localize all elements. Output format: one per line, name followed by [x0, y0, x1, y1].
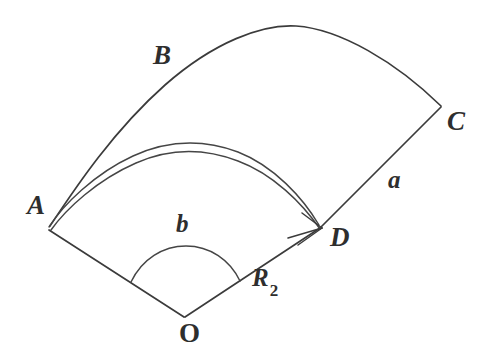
outer-arc-path	[50, 26, 441, 226]
label-r2-subscript: 2	[270, 281, 279, 300]
label-dimension-b: b	[176, 211, 189, 236]
label-dimension-a: a	[388, 167, 401, 192]
tick-mark-d-1	[288, 228, 322, 238]
diagram-canvas: A B C D O a b R2	[0, 0, 489, 360]
label-point-a: A	[27, 192, 45, 219]
label-point-b: B	[153, 42, 171, 69]
angle-arc-path	[131, 246, 240, 282]
radius-OA-path	[49, 230, 184, 317]
edge-a-path	[321, 107, 441, 227]
label-point-o: O	[179, 320, 200, 347]
label-point-d: D	[330, 224, 350, 251]
geometry-figure	[0, 0, 489, 360]
label-point-c: C	[447, 108, 465, 135]
label-dimension-r2: R2	[252, 265, 277, 295]
label-r2-base: R	[252, 264, 269, 291]
tick-mark-d-2	[298, 228, 322, 245]
